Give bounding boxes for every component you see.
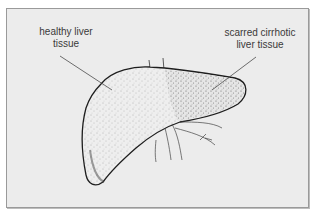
label-scarred-line1: scarred cirrhotic [210,27,310,39]
label-scarred-liver-tissue: scarred cirrhotic liver tissue [210,27,310,51]
label-healthy-line1: healthy liver [26,26,106,38]
label-healthy-line2: tissue [26,38,106,50]
hilum-vessels [155,122,222,162]
label-scarred-line2: liver tissue [210,39,310,51]
label-healthy-liver-tissue: healthy liver tissue [26,26,106,50]
leader-line-healthy [60,56,112,90]
